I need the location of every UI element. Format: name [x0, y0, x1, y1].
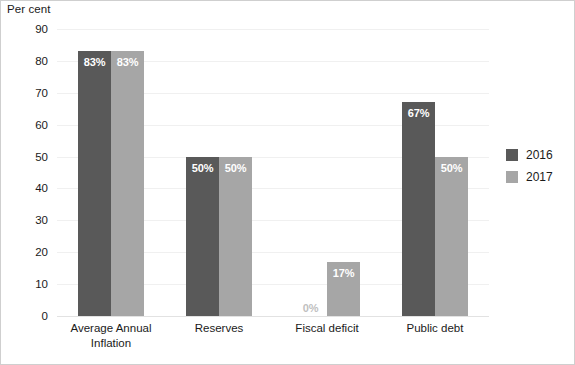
legend-label: 2016: [526, 148, 553, 162]
category-label-line: Reserves: [165, 321, 273, 336]
category-label: Public debt: [381, 321, 489, 336]
bar-2017[interactable]: 50%: [435, 157, 468, 316]
bar-value-label: 83%: [78, 56, 111, 68]
category-label: Fiscal deficit: [273, 321, 381, 336]
y-axis-tick-label: 50: [35, 151, 48, 163]
bar-chart-figure: Per cent 0102030405060708090 83%83%50%50…: [0, 0, 575, 365]
legend-item-2017[interactable]: 2017: [506, 166, 553, 188]
y-axis-tick-label: 60: [35, 119, 48, 131]
legend-label: 2017: [526, 170, 553, 184]
legend-color-swatch: [506, 171, 518, 183]
bar-2016[interactable]: 0%: [294, 300, 327, 316]
y-axis-tick-label: 30: [35, 214, 48, 226]
y-axis-tick-label: 10: [35, 278, 48, 290]
y-axis-tick-label: 70: [35, 87, 48, 99]
category-label: Average AnnualInflation: [57, 321, 165, 351]
bar-group: 50%50%: [186, 29, 252, 316]
bar-2017[interactable]: 83%: [111, 51, 144, 316]
bar-group: 0%17%: [294, 29, 360, 316]
bar-value-label: 50%: [186, 162, 219, 174]
bar-value-label: 0%: [294, 302, 327, 314]
y-axis-title: Per cent: [7, 3, 51, 15]
bar-value-label: 67%: [402, 107, 435, 119]
bar-pair: 50%50%: [186, 29, 252, 316]
category-label-line: Inflation: [57, 336, 165, 351]
chart-legend: 20162017: [506, 144, 553, 188]
y-axis-tick-label: 0: [42, 310, 48, 322]
bar-2016[interactable]: 83%: [78, 51, 111, 316]
legend-color-swatch: [506, 149, 518, 161]
bar-group: 83%83%: [78, 29, 144, 316]
bar-2016[interactable]: 50%: [186, 157, 219, 316]
bar-pair: 67%50%: [402, 29, 468, 316]
y-axis-tick-label: 80: [35, 55, 48, 67]
gridline: [57, 316, 489, 317]
bar-2016[interactable]: 67%: [402, 102, 435, 316]
bar-2017[interactable]: 50%: [219, 157, 252, 316]
category-label-line: Fiscal deficit: [273, 321, 381, 336]
y-axis-tick-label: 40: [35, 182, 48, 194]
bar-value-label: 17%: [327, 267, 360, 279]
bar-value-label: 83%: [111, 56, 144, 68]
bar-2017[interactable]: 17%: [327, 262, 360, 316]
y-axis-tick-label: 90: [35, 23, 48, 35]
plot-area: 0102030405060708090 83%83%50%50%0%17%67%…: [57, 29, 489, 316]
legend-item-2016[interactable]: 2016: [506, 144, 553, 166]
category-label: Reserves: [165, 321, 273, 336]
bar-pair: 0%17%: [294, 29, 360, 316]
bar-value-label: 50%: [435, 162, 468, 174]
y-axis-tick-label: 20: [35, 246, 48, 258]
bar-pair: 83%83%: [78, 29, 144, 316]
category-label-line: Average Annual: [57, 321, 165, 336]
bar-value-label: 50%: [219, 162, 252, 174]
bar-group: 67%50%: [402, 29, 468, 316]
category-label-line: Public debt: [381, 321, 489, 336]
